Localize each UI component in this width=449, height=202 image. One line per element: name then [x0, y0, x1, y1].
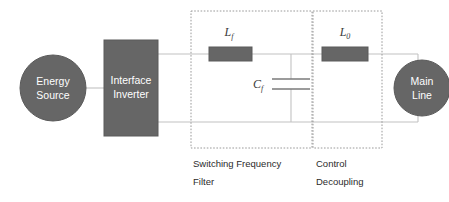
node-energy-source[interactable]: Energy Source — [20, 55, 86, 121]
node-main-line[interactable]: Main Line — [394, 60, 449, 116]
energy-source-label-line1: Energy — [36, 75, 70, 87]
caption-sff-line2: Filter — [193, 176, 214, 187]
energy-source-label-line2: Source — [36, 89, 69, 101]
interface-inverter-label-line2: Inverter — [113, 88, 149, 100]
caption-cd-line2: Decoupling — [316, 176, 364, 187]
filter-capacitor-subscript: f — [261, 84, 265, 93]
circuit-diagram: Energy Source Interface Inverter Lf Cf — [0, 0, 449, 202]
filter-inductor-subscript: f — [231, 32, 235, 41]
component-filter-inductor[interactable]: Lf — [209, 25, 252, 61]
caption-cd-line1: Control — [316, 158, 347, 169]
filter-capacitor-label: Cf — [253, 77, 265, 93]
diagram-canvas: Energy Source Interface Inverter Lf Cf — [0, 0, 449, 202]
caption-sff-line1: Switching Frequency — [193, 158, 281, 169]
decoupling-inductor-body — [322, 47, 368, 61]
interface-inverter-label-line1: Interface — [111, 74, 152, 86]
filter-inductor-body — [209, 47, 252, 61]
caption-control-decoupling: Control Decoupling — [316, 158, 364, 187]
main-line-label-line2: Line — [412, 89, 432, 101]
caption-switching-frequency-filter: Switching Frequency Filter — [193, 158, 281, 187]
decoupling-inductor-label: L0 — [339, 25, 351, 41]
filter-inductor-label: Lf — [224, 25, 236, 41]
node-interface-inverter[interactable]: Interface Inverter — [104, 40, 158, 136]
component-filter-capacitor[interactable]: Cf — [253, 77, 310, 93]
main-line-label-line1: Main — [411, 75, 434, 87]
decoupling-inductor-subscript: 0 — [346, 32, 350, 41]
component-decoupling-inductor[interactable]: L0 — [322, 25, 368, 61]
